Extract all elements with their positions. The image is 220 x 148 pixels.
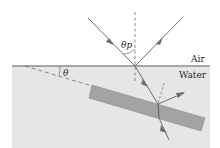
label-brewster-angle: θp (121, 40, 132, 50)
diagram-svg: Air Water θp θ (0, 0, 220, 148)
diagram-canvas: Air Water θp θ (0, 0, 220, 148)
label-tilt-angle: θ (63, 68, 69, 78)
incident-arrowhead (106, 38, 114, 45)
label-water: Water (179, 70, 207, 80)
label-air: Air (190, 54, 205, 64)
reflected-arrowhead (156, 37, 163, 45)
